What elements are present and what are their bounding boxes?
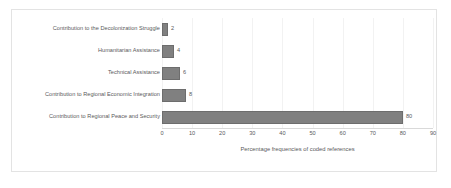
bar-row: Humanitarian Assistance 4 bbox=[12, 40, 438, 62]
category-label: Contribution to the Decolonization Strug… bbox=[16, 26, 160, 32]
bar-rows: Contribution to the Decolonization Strug… bbox=[12, 18, 438, 128]
x-tick-label: 0 bbox=[160, 131, 163, 137]
bar-row: Contribution to Regional Peace and Secur… bbox=[12, 106, 438, 128]
bar-row: Contribution to Regional Economic Integr… bbox=[12, 84, 438, 106]
bar bbox=[162, 45, 174, 58]
x-tick-label: 90 bbox=[430, 131, 436, 137]
bar-value-label: 80 bbox=[406, 114, 412, 120]
bar-container: 4 bbox=[162, 40, 180, 62]
x-tick-label: 40 bbox=[279, 131, 285, 137]
x-tick-label: 70 bbox=[370, 131, 376, 137]
category-label: Contribution to Regional Peace and Secur… bbox=[16, 114, 160, 120]
x-tick-label: 20 bbox=[219, 131, 225, 137]
x-axis-ticks: 0102030405060708090 bbox=[12, 131, 438, 143]
x-tick-label: 80 bbox=[400, 131, 406, 137]
bar-container: 2 bbox=[162, 18, 174, 40]
x-axis-title: Percentage frequencies of coded referenc… bbox=[162, 147, 433, 153]
bar-row: Contribution to the Decolonization Strug… bbox=[12, 18, 438, 40]
chart-frame: Contribution to the Decolonization Strug… bbox=[11, 9, 437, 172]
x-axis-line bbox=[162, 128, 433, 129]
bar bbox=[162, 89, 186, 102]
x-tick-label: 50 bbox=[309, 131, 315, 137]
bar-row: Technical Assistance 6 bbox=[12, 62, 438, 84]
plot-area: Contribution to the Decolonization Strug… bbox=[12, 10, 438, 173]
category-label: Humanitarian Assistance bbox=[16, 48, 160, 54]
bar-container: 8 bbox=[162, 84, 192, 106]
bar-value-label: 8 bbox=[189, 92, 192, 98]
bar bbox=[162, 23, 168, 36]
bar-container: 6 bbox=[162, 62, 186, 84]
x-tick-label: 30 bbox=[249, 131, 255, 137]
x-tick-label: 60 bbox=[340, 131, 346, 137]
bar-container: 80 bbox=[162, 106, 412, 128]
category-label: Technical Assistance bbox=[16, 70, 160, 76]
bar-value-label: 6 bbox=[183, 70, 186, 76]
x-tick-label: 10 bbox=[189, 131, 195, 137]
bar-value-label: 4 bbox=[177, 48, 180, 54]
category-label: Contribution to Regional Economic Integr… bbox=[16, 92, 160, 98]
bar bbox=[162, 67, 180, 80]
bar-value-label: 2 bbox=[171, 26, 174, 32]
bar bbox=[162, 111, 403, 124]
